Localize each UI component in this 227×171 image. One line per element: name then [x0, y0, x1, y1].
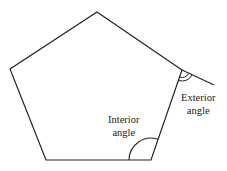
- pentagon-shape: [10, 12, 182, 160]
- exterior-angle-label-line2: angle: [181, 104, 215, 117]
- exterior-angle-label: Exterior angle: [181, 91, 215, 117]
- extension-line: [182, 70, 214, 85]
- exterior-angle-label-line1: Exterior: [181, 91, 215, 104]
- interior-angle-label-line1: Interior: [108, 113, 140, 126]
- interior-angle-label: Interior angle: [108, 113, 140, 139]
- interior-angle-label-line2: angle: [108, 126, 140, 139]
- pentagon-diagram: [0, 0, 227, 171]
- interior-angle-arc: [129, 138, 158, 160]
